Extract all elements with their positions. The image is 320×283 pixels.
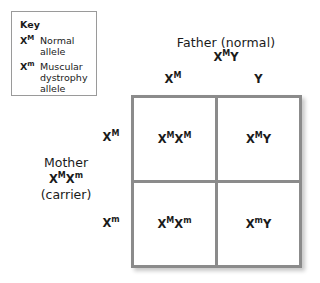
punnett-cell-genotype-0-0: XMXM	[158, 132, 192, 146]
mother-label-block: Mother XMXm (carrier)	[14, 155, 118, 203]
row-header-maternal-x-recessive: Xm	[96, 216, 126, 230]
column-header-paternal-y: Y	[215, 72, 302, 86]
key-entry-normal-allele: XM Normal allele	[20, 35, 90, 57]
punnett-cell-genotype-1-1: XmY	[246, 217, 272, 231]
father-label-block: Father (normal) XMY	[140, 35, 312, 65]
row-header-maternal-x-dominant: XM	[96, 130, 126, 144]
punnett-cell-genotype-1-0: XMXm	[157, 217, 191, 231]
punnett-cell-1-0: XMXm	[134, 183, 215, 265]
punnett-square-grid: XMXM XMY XMXm XmY	[131, 95, 302, 268]
key-description-normal-allele: Normal allele	[40, 35, 90, 57]
column-header-paternal-x: XM	[131, 72, 215, 86]
mother-status: (carrier)	[14, 187, 118, 203]
punnett-cell-genotype-0-1: XMY	[246, 132, 271, 146]
punnett-cell-1-1: XmY	[218, 183, 299, 265]
mother-genotype: XMXm	[14, 171, 118, 187]
mother-title: Mother	[14, 155, 118, 171]
punnett-cell-0-0: XMXM	[134, 98, 215, 180]
punnett-cell-0-1: XMY	[218, 98, 299, 180]
key-description-dystrophy-allele: Muscular dystrophy allele	[40, 61, 90, 94]
key-symbol-normal-allele: XM	[20, 35, 40, 46]
key-symbol-dystrophy-allele: Xm	[20, 61, 40, 72]
key-entry-dystrophy-allele: Xm Muscular dystrophy allele	[20, 61, 90, 94]
father-genotype: XMY	[140, 50, 312, 65]
father-title: Father (normal)	[140, 35, 312, 50]
key-title: Key	[20, 19, 90, 30]
key-box: Key XM Normal allele Xm Muscular dystrop…	[11, 11, 97, 96]
